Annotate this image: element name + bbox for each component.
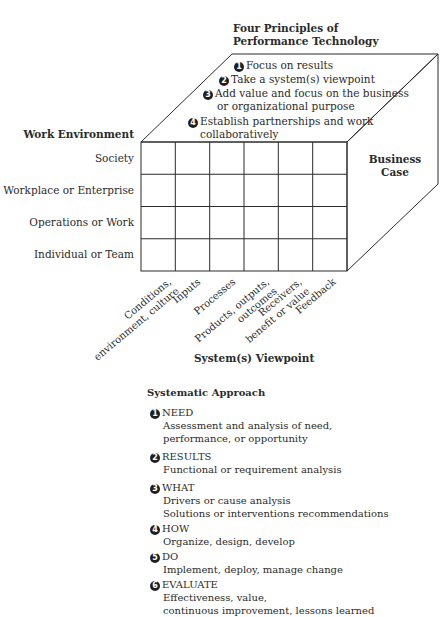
principle-item-3: 3Add value and focus on the business xyxy=(203,87,409,100)
step-desc: Effectiveness, value, xyxy=(150,591,374,604)
row-label-individual: Individual or Team xyxy=(0,248,134,261)
principle-text: Add value and focus on the business xyxy=(215,87,409,99)
row-label-operations: Operations or Work xyxy=(0,216,134,229)
principle-text-continued: collaboratively xyxy=(200,128,279,140)
business-case-line1: Business xyxy=(360,153,430,166)
step-desc: Assessment and analysis of need, xyxy=(150,419,332,432)
systematic-approach-title: Systematic Approach xyxy=(147,386,265,399)
principle-item-4: 4Establish partnerships and work xyxy=(188,115,373,128)
number-6-icon: 6 xyxy=(150,581,160,591)
step-name: NEED xyxy=(162,407,193,418)
number-1-icon: 1 xyxy=(150,409,160,419)
number-1-icon: 1 xyxy=(234,62,244,72)
principle-item-1: 1Focus on results xyxy=(234,59,333,72)
principle-text: Take a system(s) viewpoint xyxy=(231,73,375,85)
step-name: RESULTS xyxy=(162,451,211,462)
row-label-society: Society xyxy=(0,152,134,165)
principle-text: Focus on results xyxy=(246,59,333,71)
number-2-icon: 2 xyxy=(150,453,160,463)
business-case-label: Business Case xyxy=(360,153,430,179)
step-desc: performance, or opportunity xyxy=(150,432,332,445)
number-4-icon: 4 xyxy=(150,525,160,535)
principle-text: Establish partnerships and work xyxy=(200,115,373,127)
step-desc: Organize, design, develop xyxy=(150,535,295,548)
step-desc: continuous improvement, lessons learned xyxy=(150,604,374,617)
step-need: 1NEED Assessment and analysis of need, p… xyxy=(150,406,332,445)
principles-title: Four Principles of Performance Technolog… xyxy=(233,22,379,48)
step-desc: Functional or requirement analysis xyxy=(150,463,342,476)
step-results: 2RESULTS Functional or requirement analy… xyxy=(150,450,342,476)
step-how: 4HOW Organize, design, develop xyxy=(150,522,295,548)
step-what: 3WHAT Drivers or cause analysis Solution… xyxy=(150,481,389,520)
business-case-line2: Case xyxy=(360,166,430,179)
principles-title-line2: Performance Technology xyxy=(233,35,379,48)
step-desc: Implement, deploy, manage change xyxy=(150,563,343,576)
step-name: DO xyxy=(162,551,178,562)
system-viewpoint-title: System(s) Viewpoint xyxy=(194,352,314,365)
number-3-icon: 3 xyxy=(203,90,213,100)
number-4-icon: 4 xyxy=(188,118,198,128)
principle-item-4-cont: collaboratively xyxy=(200,128,279,141)
principle-text-continued: or organizational purpose xyxy=(217,100,355,112)
principles-title-line1: Four Principles of xyxy=(233,22,379,35)
step-evaluate: 6EVALUATE Effectiveness, value, continuo… xyxy=(150,578,374,617)
number-3-icon: 3 xyxy=(150,484,160,494)
step-name: HOW xyxy=(162,523,189,534)
step-name: WHAT xyxy=(162,482,194,493)
row-label-workplace: Workplace or Enterprise xyxy=(0,184,134,197)
work-environment-title: Work Environment xyxy=(0,128,134,141)
step-name: EVALUATE xyxy=(162,579,218,590)
number-5-icon: 5 xyxy=(150,553,160,563)
principle-item-2: 2Take a system(s) viewpoint xyxy=(219,73,375,86)
step-desc: Drivers or cause analysis xyxy=(150,494,389,507)
number-2-icon: 2 xyxy=(219,76,229,86)
step-do: 5DO Implement, deploy, manage change xyxy=(150,550,343,576)
principle-item-3-cont: or organizational purpose xyxy=(217,100,355,113)
step-desc: Solutions or interventions recommendatio… xyxy=(150,507,389,520)
